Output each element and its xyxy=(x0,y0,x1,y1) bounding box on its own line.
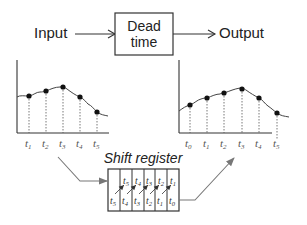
sample-point xyxy=(187,102,192,107)
shift-register-title: Shift register xyxy=(104,150,184,166)
block-label-line2: time xyxy=(131,34,158,50)
sample-point xyxy=(43,88,48,93)
dead-time-diagram: Input Dead time Output t1 t2 t3 t4 t5 xyxy=(0,0,307,225)
block-label-line1: Dead xyxy=(127,18,160,34)
svg-text:t1: t1 xyxy=(203,137,210,151)
svg-text:t3: t3 xyxy=(59,137,66,151)
svg-text:t2: t2 xyxy=(42,137,49,151)
input-plot: t1 t2 t3 t4 t5 xyxy=(17,60,109,151)
input-label: Input xyxy=(34,24,68,41)
sample-point xyxy=(94,109,99,114)
sample-point xyxy=(77,94,82,99)
shift-register: t5 t4 t3 t2 t1 t5 t4 t3 t2 t1 t0 xyxy=(108,169,179,211)
svg-text:t2: t2 xyxy=(220,137,227,151)
sample-point xyxy=(239,86,244,91)
sample-point xyxy=(274,110,279,115)
svg-text:t1: t1 xyxy=(25,137,32,151)
input-time-ticks: t1 t2 t3 t4 t5 xyxy=(25,137,100,151)
svg-text:t4: t4 xyxy=(255,137,262,151)
svg-text:t4: t4 xyxy=(76,137,83,151)
svg-text:t0: t0 xyxy=(185,137,192,151)
input-to-register-arrow xyxy=(58,157,107,181)
sample-point xyxy=(26,93,31,98)
output-label: Output xyxy=(219,24,265,41)
sample-point xyxy=(204,95,209,100)
output-time-ticks: t0 t1 t2 t3 t4 t5 xyxy=(185,137,280,151)
output-plot: t0 t1 t2 t3 t4 t5 xyxy=(179,60,289,151)
svg-text:t3: t3 xyxy=(238,137,245,151)
svg-text:t5: t5 xyxy=(93,137,100,151)
sample-point xyxy=(60,84,65,89)
svg-text:t5: t5 xyxy=(273,137,280,151)
sample-point xyxy=(221,90,226,95)
sample-point xyxy=(256,95,261,100)
register-to-output-arrow xyxy=(179,158,234,200)
